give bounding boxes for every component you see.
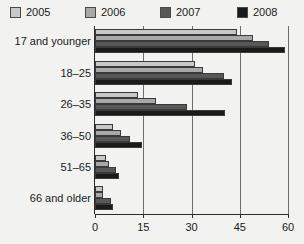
bar-group-0 bbox=[95, 29, 288, 55]
bar-chart: 2005 2006 2007 2008 17 and younger18–252… bbox=[0, 0, 304, 244]
legend-label-2006: 2006 bbox=[101, 7, 125, 18]
legend-swatch-2008 bbox=[237, 7, 248, 18]
legend-entry-2005: 2005 bbox=[10, 5, 50, 19]
legend-label-2005: 2005 bbox=[26, 7, 50, 18]
legend-label-2007: 2007 bbox=[176, 7, 200, 18]
bar-2008-4 bbox=[95, 173, 119, 179]
bar-2008-3 bbox=[95, 142, 142, 148]
x-tick-label-45: 45 bbox=[225, 221, 255, 233]
category-label-0: 17 and younger bbox=[0, 35, 91, 47]
legend-label-2008: 2008 bbox=[253, 7, 277, 18]
legend-swatch-2005 bbox=[10, 7, 21, 18]
bar-2008-5 bbox=[95, 204, 113, 210]
category-label-4: 51–65 bbox=[0, 161, 91, 173]
x-tick-label-30: 30 bbox=[177, 221, 207, 233]
x-tick-15 bbox=[143, 214, 144, 218]
x-tick-0 bbox=[95, 214, 96, 218]
x-tick-label-15: 15 bbox=[128, 221, 158, 233]
bar-2008-2 bbox=[95, 110, 225, 116]
category-label-2: 26–35 bbox=[0, 98, 91, 110]
bar-group-5 bbox=[95, 186, 288, 212]
legend-entry-2006: 2006 bbox=[85, 5, 125, 19]
category-label-1: 18–25 bbox=[0, 67, 91, 79]
category-label-5: 66 and older bbox=[0, 192, 91, 204]
bar-group-3 bbox=[95, 124, 288, 150]
x-tick-45 bbox=[240, 214, 241, 218]
bar-2008-1 bbox=[95, 79, 232, 85]
x-tick-30 bbox=[192, 214, 193, 218]
legend-entry-2007: 2007 bbox=[160, 5, 200, 19]
x-tick-label-60: 60 bbox=[273, 221, 303, 233]
bar-group-1 bbox=[95, 61, 288, 87]
legend-swatch-2007 bbox=[160, 7, 171, 18]
category-label-3: 36–50 bbox=[0, 130, 91, 142]
x-tick-60 bbox=[288, 214, 289, 218]
legend-swatch-2006 bbox=[85, 7, 96, 18]
bar-group-4 bbox=[95, 155, 288, 181]
gridline-60 bbox=[288, 26, 289, 214]
x-tick-label-0: 0 bbox=[80, 221, 110, 233]
bar-group-2 bbox=[95, 92, 288, 118]
legend-entry-2008: 2008 bbox=[237, 5, 277, 19]
plot-area bbox=[95, 26, 288, 214]
chart-legend: 2005 2006 2007 2008 bbox=[0, 0, 304, 26]
bar-2008-0 bbox=[95, 47, 285, 53]
